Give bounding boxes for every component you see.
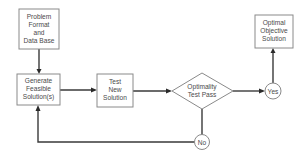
node-test-line-2: New xyxy=(108,86,121,93)
node-optimal-line-3: Solution xyxy=(262,35,286,42)
arrowhead-right-icon xyxy=(259,89,265,94)
node-optimality-test: Optimality Test Pass xyxy=(172,73,233,109)
edge-no-to-generate xyxy=(38,110,195,142)
arrowhead-up-icon xyxy=(271,48,276,53)
node-no-label: No xyxy=(198,139,207,146)
node-generate-line-3: Solution(s) xyxy=(23,93,55,101)
node-optimal-line-2: Objective xyxy=(260,27,288,35)
node-problem-format-line-2: Format xyxy=(29,21,50,28)
arrowhead-right-icon xyxy=(91,88,97,93)
arrowhead-up-icon xyxy=(36,105,41,111)
node-yes: Yes xyxy=(265,83,281,99)
node-no: No xyxy=(195,135,210,150)
node-test-line-3: Solution xyxy=(103,94,127,101)
arrowhead-down-icon xyxy=(37,69,42,74)
node-problem-format: Problem Format and Data Base xyxy=(19,9,59,49)
node-test-new-solution: Test New Solution xyxy=(97,74,133,107)
node-problem-format-line-4: Data Base xyxy=(24,37,55,44)
node-generate-line-1: Generate xyxy=(25,77,53,84)
node-optimal-objective: Optimal Objective Solution xyxy=(255,15,293,48)
flowchart-diagram: Problem Format and Data Base Generate Fe… xyxy=(0,0,308,160)
node-yes-label: Yes xyxy=(268,88,279,95)
node-optimality-line-2: Test Pass xyxy=(188,91,217,98)
node-problem-format-line-1: Problem xyxy=(27,13,52,20)
node-generate-line-2: Feasible xyxy=(26,85,51,92)
node-generate-feasible: Generate Feasible Solution(s) xyxy=(17,74,60,105)
node-problem-format-line-3: and xyxy=(33,29,44,36)
node-test-line-1: Test xyxy=(109,78,121,85)
node-optimal-line-1: Optimal xyxy=(263,19,286,27)
node-optimality-line-1: Optimality xyxy=(187,83,217,91)
connectors xyxy=(36,48,276,142)
